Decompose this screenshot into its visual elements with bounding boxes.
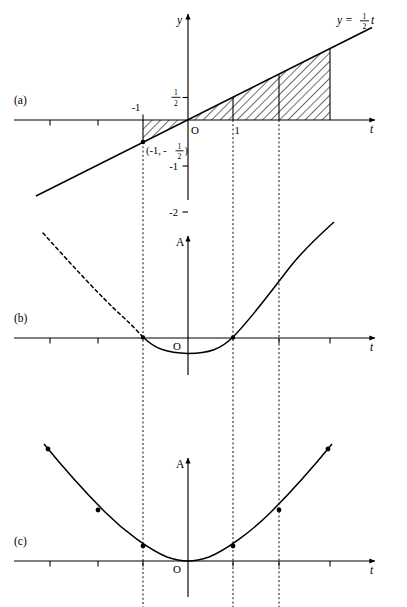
panel-c-point-right-outer bbox=[326, 447, 331, 452]
panel-a: (a) y t O -1 1 1 2 -1 -2 y = 1 2 t bbox=[14, 12, 375, 607]
panel-a-t-axis-label: t bbox=[370, 123, 374, 135]
panel-c-point-left-outer bbox=[46, 447, 51, 452]
panel-a-ytick-label-neg2: -2 bbox=[169, 207, 178, 218]
panel-b-point-at-neg1 bbox=[141, 335, 145, 339]
figure-root: (a) y t O -1 1 1 2 -1 -2 y = 1 2 t bbox=[0, 0, 407, 607]
panel-a-ytick-half-numerator: 1 bbox=[174, 88, 178, 97]
panel-c-t-axis-label: t bbox=[370, 564, 374, 576]
panel-a-point-label-open: (-1, - bbox=[146, 145, 167, 157]
panel-c-point-at-neg2 bbox=[96, 508, 101, 513]
panel-a-y-axis-label: y bbox=[176, 14, 183, 27]
panel-b-origin-label: O bbox=[173, 340, 181, 352]
panel-a-point-label-numerator: 1 bbox=[178, 142, 182, 151]
shaded-region-a-2-to-3 bbox=[279, 49, 330, 120]
panel-b-curve-dotted-segment bbox=[43, 233, 143, 337]
panel-a-equation-suffix: t bbox=[371, 14, 375, 26]
panel-a-label: (a) bbox=[14, 94, 27, 107]
panel-b: (b) A t O bbox=[14, 222, 375, 375]
panel-a-equation-prefix: y = bbox=[336, 14, 353, 27]
panel-a-point-label-close: ) bbox=[185, 145, 189, 157]
panel-a-ytick-label-half: 1 2 bbox=[172, 88, 181, 108]
math-figure-svg: (a) y t O -1 1 1 2 -1 -2 y = 1 2 t bbox=[0, 0, 407, 607]
panel-b-t-axis-label: t bbox=[370, 341, 374, 353]
panel-b-label: (b) bbox=[14, 312, 28, 325]
panel-a-equation-label: y = 1 2 t bbox=[336, 12, 375, 32]
panel-c-origin-label: O bbox=[173, 563, 181, 575]
panel-c-A-axis-label: A bbox=[176, 458, 185, 470]
panel-a-ytick-half-denominator: 2 bbox=[174, 99, 178, 108]
panel-a-equation-denominator: 2 bbox=[363, 22, 367, 31]
panel-a-point-label-denominator: 2 bbox=[178, 152, 182, 161]
panel-c-point-at-2 bbox=[277, 508, 282, 513]
panel-b-curve-solid-segment bbox=[143, 222, 334, 354]
panel-c-point-at-1 bbox=[231, 544, 236, 549]
panel-b-point-at-1 bbox=[231, 335, 235, 339]
panel-a-xtick-label-1: 1 bbox=[234, 125, 239, 136]
panel-a-point-label: (-1, - 1 2 ) bbox=[146, 142, 189, 161]
panel-c: (c) A t O bbox=[14, 444, 375, 597]
panel-a-origin-label: O bbox=[191, 124, 199, 136]
panel-a-ytick-label-neg1: -1 bbox=[169, 161, 178, 172]
panel-a-xtick-label-neg1: -1 bbox=[132, 102, 141, 113]
panel-c-point-at-neg1 bbox=[141, 544, 146, 549]
panel-a-equation-numerator: 1 bbox=[363, 12, 367, 21]
shaded-region-a-1-to-2 bbox=[233, 75, 279, 121]
panel-b-A-axis-label: A bbox=[176, 236, 185, 248]
panel-c-label: (c) bbox=[14, 535, 27, 548]
